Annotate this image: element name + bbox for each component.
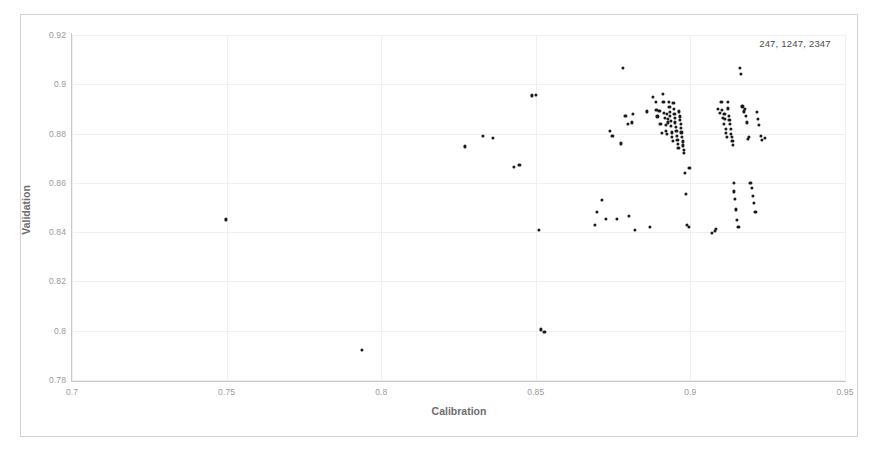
gridline-y-0.9 — [72, 84, 845, 85]
data-point — [753, 201, 756, 204]
data-point — [717, 107, 720, 110]
data-point — [665, 132, 668, 135]
y-tick-label: 0.88 — [20, 129, 66, 139]
data-point — [735, 218, 738, 221]
data-point — [737, 225, 740, 228]
data-point — [646, 110, 649, 113]
data-point — [518, 164, 521, 167]
data-point — [743, 107, 746, 110]
data-point — [654, 100, 657, 103]
gridline-x-0.7 — [72, 35, 73, 380]
data-point — [627, 215, 630, 218]
data-point — [676, 138, 679, 141]
data-point — [677, 110, 680, 113]
gridline-x-0.75 — [227, 35, 228, 380]
data-point — [733, 197, 736, 200]
data-point — [662, 100, 665, 103]
data-point — [754, 210, 757, 213]
gridline-y-0.84 — [72, 232, 845, 233]
gridline-x-0.9 — [690, 35, 691, 380]
series-annotation-label: 247, 1247, 2347 — [759, 38, 831, 49]
y-tick-label: 0.78 — [20, 375, 66, 385]
data-point — [757, 123, 760, 126]
data-point — [482, 134, 485, 137]
data-point — [661, 93, 664, 96]
data-point — [763, 136, 766, 139]
data-point — [615, 217, 618, 220]
data-point — [728, 123, 731, 126]
data-point — [680, 127, 683, 130]
data-point — [750, 187, 753, 190]
data-point — [683, 152, 686, 155]
data-point — [673, 117, 676, 120]
x-tick-label: 0.75 — [197, 387, 257, 397]
data-point — [534, 93, 537, 96]
data-point — [723, 118, 726, 121]
plot-area — [72, 35, 845, 380]
data-point — [731, 143, 734, 146]
data-point — [675, 134, 678, 137]
data-point — [724, 127, 727, 130]
gridline-x-0.8 — [381, 35, 382, 380]
data-point — [593, 223, 596, 226]
data-point — [624, 114, 627, 117]
data-point — [751, 194, 754, 197]
y-tick-label: 0.82 — [20, 276, 66, 286]
data-point — [630, 121, 633, 124]
x-tick-label: 0.8 — [351, 387, 411, 397]
x-tick-label: 0.7 — [42, 387, 102, 397]
data-point — [659, 122, 662, 125]
data-point — [722, 122, 725, 125]
data-point — [678, 115, 681, 118]
data-point — [658, 109, 661, 112]
data-point — [656, 115, 659, 118]
data-point — [671, 135, 674, 138]
gridline-y-0.78 — [72, 380, 845, 381]
data-point — [680, 135, 683, 138]
data-point — [670, 125, 673, 128]
data-point — [626, 123, 629, 126]
data-point — [726, 100, 729, 103]
data-point — [732, 181, 735, 184]
data-point — [633, 228, 636, 231]
data-point — [611, 134, 614, 137]
data-point — [734, 208, 737, 211]
gridline-y-0.86 — [72, 183, 845, 184]
data-point — [674, 125, 677, 128]
data-point — [755, 110, 758, 113]
data-point — [738, 67, 741, 70]
data-point — [668, 110, 671, 113]
data-point — [684, 192, 687, 195]
y-tick-label: 0.8 — [20, 326, 66, 336]
data-point — [749, 181, 752, 184]
data-point — [756, 117, 759, 120]
data-point — [723, 112, 726, 115]
data-point — [730, 135, 733, 138]
data-point — [725, 135, 728, 138]
data-point — [681, 140, 684, 143]
data-point — [669, 114, 672, 117]
data-point — [604, 217, 607, 220]
data-point — [669, 119, 672, 122]
data-point — [729, 128, 732, 131]
data-point — [671, 139, 674, 142]
data-point — [608, 129, 611, 132]
data-point — [621, 67, 624, 70]
gridline-y-0.82 — [72, 281, 845, 282]
data-point — [672, 107, 675, 110]
data-point — [543, 330, 546, 333]
data-point — [675, 130, 678, 133]
data-point — [720, 100, 723, 103]
x-tick-label: 0.95 — [815, 387, 874, 397]
data-point — [672, 101, 675, 104]
data-point — [513, 165, 516, 168]
data-point — [652, 95, 655, 98]
data-point — [731, 139, 734, 142]
data-point — [679, 122, 682, 125]
gridline-y-0.92 — [72, 35, 845, 36]
data-point — [682, 148, 685, 151]
data-point — [674, 121, 677, 124]
data-point — [714, 228, 717, 231]
scatter-plot-figure: 0.780.80.820.840.860.880.90.92 0.70.750.… — [0, 0, 874, 453]
data-point — [360, 349, 363, 352]
